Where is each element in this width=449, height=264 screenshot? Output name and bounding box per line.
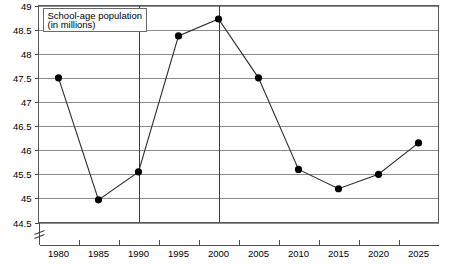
data-point-marker bbox=[295, 166, 302, 173]
y-tick-label: 44.5 bbox=[13, 218, 32, 229]
y-tick-label: 48 bbox=[21, 49, 32, 60]
x-tick-label: 1985 bbox=[88, 248, 109, 259]
data-point-marker bbox=[415, 139, 422, 146]
x-tick-label: 2020 bbox=[368, 248, 389, 259]
y-tick-label: 48.5 bbox=[13, 25, 32, 36]
data-point-marker bbox=[95, 196, 102, 203]
data-series-line bbox=[59, 19, 419, 200]
y-axis-break bbox=[35, 223, 45, 245]
x-tick-label: 1980 bbox=[48, 248, 69, 259]
y-tick-label: 47.5 bbox=[13, 73, 32, 84]
y-tick-label: 49 bbox=[21, 1, 32, 12]
school-age-population-line-chart: 4948.54847.54746.54645.54544.51980198519… bbox=[0, 0, 449, 264]
data-markers bbox=[55, 15, 422, 203]
data-point-marker bbox=[255, 74, 262, 81]
y-tick-label: 46 bbox=[21, 145, 32, 156]
x-tick-label: 2000 bbox=[208, 248, 229, 259]
chart-container: 4948.54847.54746.54645.54544.51980198519… bbox=[0, 0, 449, 264]
plot-area-border bbox=[39, 6, 439, 223]
y-axis: 4948.54847.54746.54645.54544.5 bbox=[13, 1, 39, 229]
chart-title-box: School-age population(in millions) bbox=[44, 9, 147, 32]
y-tick-label: 45.5 bbox=[13, 169, 32, 180]
y-tick-label: 47 bbox=[21, 97, 32, 108]
data-point-marker bbox=[335, 185, 342, 192]
y-tick-label: 45 bbox=[21, 193, 32, 204]
data-point-marker bbox=[215, 15, 222, 22]
x-tick-label: 1995 bbox=[168, 248, 189, 259]
data-point-marker bbox=[175, 32, 182, 39]
data-point-marker bbox=[375, 171, 382, 178]
x-tick-label: 2015 bbox=[328, 248, 349, 259]
data-point-marker bbox=[135, 168, 142, 175]
x-tick-label: 1990 bbox=[128, 248, 149, 259]
x-tick-label: 2010 bbox=[288, 248, 309, 259]
data-point-marker bbox=[55, 74, 62, 81]
gridlines-horizontal bbox=[39, 7, 439, 224]
x-axis: 1980198519901995200020052010201520202025 bbox=[40, 240, 439, 259]
x-tick-label: 2025 bbox=[408, 248, 429, 259]
y-tick-label: 46.5 bbox=[13, 121, 32, 132]
chart-title-line-2: (in millions) bbox=[48, 19, 96, 30]
x-tick-label: 2005 bbox=[248, 248, 269, 259]
